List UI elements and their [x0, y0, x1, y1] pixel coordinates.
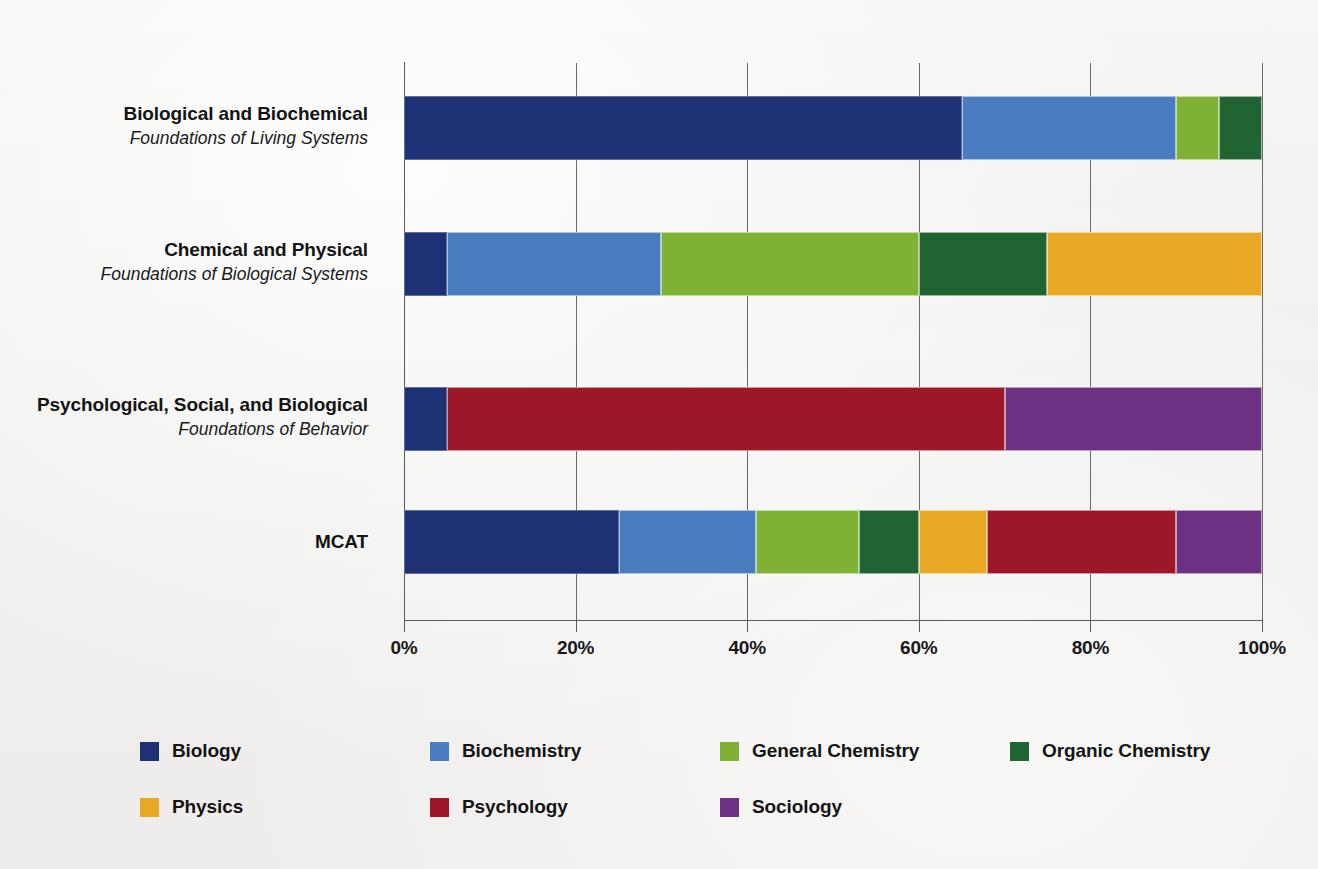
bar-segment-biochemistry — [619, 510, 756, 574]
x-tick-mark — [1262, 620, 1263, 632]
legend-swatch-icon — [720, 742, 739, 761]
category-label-4: MCAT — [0, 530, 390, 554]
bar-segment-biochemistry — [447, 232, 662, 296]
bar-segment-biology — [404, 96, 962, 160]
bar-segment-general-chemistry — [1176, 96, 1219, 160]
bar-segment-biology — [404, 232, 447, 296]
bar-segment-sociology — [1005, 387, 1262, 451]
legend-item-psychology[interactable]: Psychology — [430, 796, 720, 818]
x-tick-label: 20% — [557, 637, 594, 659]
legend-swatch-icon — [140, 798, 159, 817]
x-tick-label: 80% — [1072, 637, 1109, 659]
legend-swatch-icon — [430, 742, 449, 761]
x-tick-mark — [1090, 620, 1091, 632]
bar-row-3 — [404, 387, 1262, 451]
x-tick-mark — [919, 620, 920, 632]
chart-legend: BiologyBiochemistryGeneral ChemistryOrga… — [140, 740, 1290, 852]
legend-item-general-chemistry[interactable]: General Chemistry — [720, 740, 1010, 762]
x-tick-label: 100% — [1238, 637, 1286, 659]
legend-swatch-icon — [140, 742, 159, 761]
gridline-100 — [1262, 63, 1263, 620]
legend-label: Organic Chemistry — [1042, 740, 1210, 762]
plot-area — [404, 63, 1262, 620]
category-title: MCAT — [0, 530, 368, 554]
bar-segment-organic-chemistry — [1219, 96, 1262, 160]
x-axis-line — [404, 620, 1263, 621]
x-tick-label: 0% — [390, 637, 417, 659]
category-title: Biological and Biochemical — [0, 102, 368, 126]
x-tick-mark — [747, 620, 748, 632]
bar-segment-organic-chemistry — [859, 510, 919, 574]
category-title: Psychological, Social, and Biological — [0, 393, 368, 417]
legend-item-physics[interactable]: Physics — [140, 796, 430, 818]
x-tick-mark — [404, 620, 405, 632]
bar-segment-biochemistry — [962, 96, 1177, 160]
category-subtitle: Foundations of Living Systems — [0, 127, 368, 150]
legend-row-2: PhysicsPsychologySociology — [140, 796, 1290, 818]
legend-item-sociology[interactable]: Sociology — [720, 796, 1010, 818]
legend-label: Psychology — [462, 796, 568, 818]
bar-segment-organic-chemistry — [919, 232, 1048, 296]
legend-item-organic-chemistry[interactable]: Organic Chemistry — [1010, 740, 1290, 762]
legend-label: Biology — [172, 740, 241, 762]
legend-row-1: BiologyBiochemistryGeneral ChemistryOrga… — [140, 740, 1290, 762]
bar-row-4 — [404, 510, 1262, 574]
bar-segment-psychology — [987, 510, 1176, 574]
bar-segment-sociology — [1176, 510, 1262, 574]
bar-segment-general-chemistry — [756, 510, 859, 574]
legend-swatch-icon — [720, 798, 739, 817]
legend-swatch-icon — [1010, 742, 1029, 761]
category-subtitle: Foundations of Behavior — [0, 418, 368, 441]
legend-swatch-icon — [430, 798, 449, 817]
bar-segment-psychology — [447, 387, 1005, 451]
category-label-2: Chemical and PhysicalFoundations of Biol… — [0, 238, 390, 286]
bar-segment-biology — [404, 387, 447, 451]
x-tick-label: 60% — [900, 637, 937, 659]
legend-label: Sociology — [752, 796, 842, 818]
legend-item-biochemistry[interactable]: Biochemistry — [430, 740, 720, 762]
bar-row-1 — [404, 96, 1262, 160]
category-label-1: Biological and BiochemicalFoundations of… — [0, 102, 390, 150]
legend-item-biology[interactable]: Biology — [140, 740, 430, 762]
legend-label: General Chemistry — [752, 740, 919, 762]
legend-label: Physics — [172, 796, 243, 818]
category-label-3: Psychological, Social, and BiologicalFou… — [0, 393, 390, 441]
x-tick-mark — [576, 620, 577, 632]
bar-segment-biology — [404, 510, 619, 574]
bar-row-2 — [404, 232, 1262, 296]
bar-segment-general-chemistry — [661, 232, 918, 296]
legend-label: Biochemistry — [462, 740, 581, 762]
category-title: Chemical and Physical — [0, 238, 368, 262]
category-subtitle: Foundations of Biological Systems — [0, 263, 368, 286]
x-tick-label: 40% — [728, 637, 765, 659]
stacked-bar-chart: Biological and BiochemicalFoundations of… — [0, 0, 1318, 869]
bar-segment-physics — [919, 510, 988, 574]
bar-segment-physics — [1047, 232, 1262, 296]
